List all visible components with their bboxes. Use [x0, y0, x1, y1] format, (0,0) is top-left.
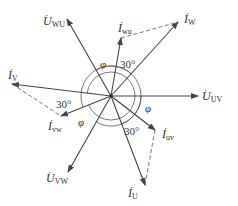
phasor-dot-icon: ·	[186, 9, 189, 19]
phasor-dot-icon: ·	[120, 18, 123, 28]
angle-phi-label: φ	[78, 117, 84, 128]
label-u-uv: ·UUV	[202, 90, 222, 104]
dashed-construction-lines	[12, 22, 178, 185]
label-i-uv: ·Iuv	[162, 128, 174, 142]
label-u-vw: ·UVW	[46, 172, 68, 186]
phasor-dot-icon: ·	[48, 168, 51, 178]
phasor-dot-icon: ·	[50, 116, 53, 126]
phasor-i-v	[12, 84, 111, 96]
angle-arc	[122, 114, 135, 124]
phasor-dot-icon: ·	[45, 11, 48, 21]
phasor-dot-icon: ·	[164, 124, 167, 134]
angle-phi-label: φ	[100, 59, 106, 70]
label-i-wu: ·Iwu	[118, 22, 132, 36]
label-i-v: ·IV	[8, 69, 18, 83]
label-i-u: ·IU	[128, 187, 138, 201]
phasor-dot-icon: ·	[204, 86, 207, 96]
label-u-wu: ·UWU	[43, 15, 65, 29]
dashed-line	[145, 130, 155, 185]
angle-30-label: 30°	[120, 59, 135, 70]
angle-arc	[135, 96, 141, 114]
label-i-vw: ·Ivw	[48, 120, 62, 134]
angle-phi-label: φ	[145, 103, 151, 114]
origin-point	[109, 94, 113, 98]
angle-30-label: 30°	[124, 126, 139, 137]
angle-30-label: 30°	[56, 99, 71, 110]
phasor-dot-icon: ·	[10, 65, 13, 75]
phasor-dot-icon: ·	[130, 183, 133, 193]
label-i-w: ·IW	[184, 13, 196, 27]
